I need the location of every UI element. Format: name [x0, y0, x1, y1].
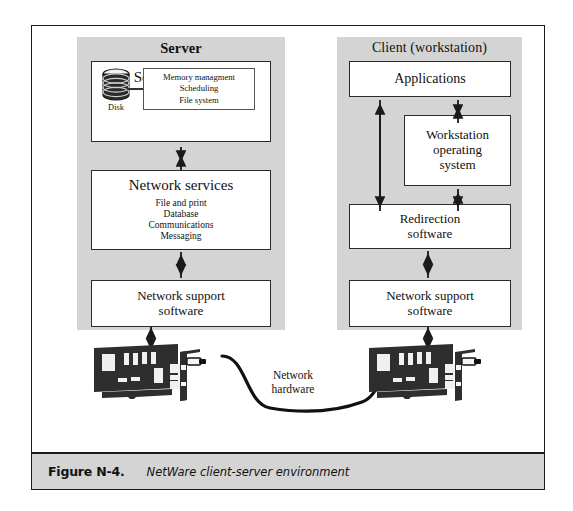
server-network-support-line2: software: [159, 304, 204, 319]
workstation-os-line2: operating: [433, 143, 482, 158]
server-platform-functions-box: Memory managment Scheduling File system: [143, 68, 255, 110]
applications-box: Applications: [349, 61, 511, 97]
disk-label: Disk: [94, 103, 138, 112]
server-network-interface-card: [90, 338, 212, 406]
workstation-operating-system-box: Workstation operating system: [404, 115, 511, 186]
network-services-item: Messaging: [149, 231, 214, 242]
disk-connector-line: [127, 88, 144, 90]
network-services-item: Communications: [149, 220, 214, 231]
network-services-title: Network services: [125, 177, 238, 194]
network-services-item: Database: [149, 209, 214, 220]
server-function-item: Scheduling: [180, 83, 219, 94]
figure-caption-bar: Figure N-4. NetWare client-server enviro…: [32, 452, 544, 489]
network-services-item: File and print: [149, 198, 214, 209]
figure-caption-text: NetWare client-server environment: [147, 465, 350, 479]
network-services-box: Network services File and print Database…: [91, 170, 271, 250]
server-function-item: Memory managment: [163, 72, 235, 83]
figure-frame: Server Server platform Disk: [31, 25, 545, 490]
applications-title: Applications: [390, 71, 470, 87]
network-interface-card-icon: [90, 338, 212, 406]
network-interface-card-icon: [365, 338, 487, 406]
client-network-interface-card: [365, 338, 487, 406]
redirection-line2: software: [408, 227, 453, 242]
server-network-support-box: Network support software: [91, 280, 271, 327]
server-column-panel: Server Server platform Disk: [77, 37, 285, 330]
diagram-canvas: Server Server platform Disk: [32, 26, 544, 436]
server-network-support-line1: Network support: [137, 289, 225, 304]
server-function-item: File system: [179, 95, 218, 106]
client-network-support-line2: software: [408, 304, 453, 319]
client-network-support-line1: Network support: [386, 289, 474, 304]
client-column-panel: Client (workstation) Applications Workst…: [337, 37, 522, 330]
figure-number-label: Figure N-4.: [48, 464, 125, 479]
client-column-title: Client (workstation): [337, 40, 522, 56]
workstation-os-line3: system: [439, 158, 475, 173]
disk-icon: Disk: [94, 65, 138, 115]
redirection-line1: Redirection: [400, 212, 461, 227]
workstation-os-line1: Workstation: [426, 128, 489, 143]
network-hardware-label: Network hardware: [250, 369, 336, 397]
server-column-title: Server: [77, 40, 285, 57]
network-services-items: File and print Database Communications M…: [149, 198, 214, 243]
client-network-support-box: Network support software: [349, 280, 511, 327]
redirection-software-box: Redirection software: [349, 204, 511, 249]
network-hardware-line2: hardware: [250, 383, 336, 397]
network-hardware-line1: Network: [250, 369, 336, 383]
